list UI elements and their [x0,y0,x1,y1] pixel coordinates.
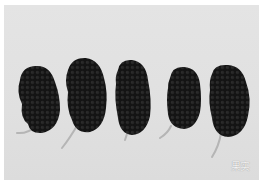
mulberry-2 [66,58,107,132]
mulberry-4 [167,67,201,129]
photo-caption: 果实 [231,158,249,173]
mulberry-photo: 果实 [4,5,259,180]
fruit-illustration [4,5,259,180]
mulberry-5 [209,65,249,137]
mulberry-1 [18,66,60,133]
mulberry-3 [115,60,150,135]
